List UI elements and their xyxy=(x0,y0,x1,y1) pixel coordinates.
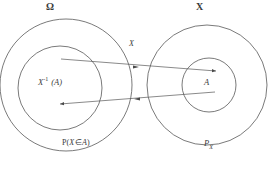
preimage-exponent: -1 xyxy=(43,76,48,82)
probability-close-paren: ) xyxy=(87,138,90,147)
pullback-arrow xyxy=(60,92,215,104)
codomain-set-label: X xyxy=(196,2,203,12)
omega-outer-circle xyxy=(0,19,132,151)
pushforward-measure-label: PX xyxy=(204,139,213,150)
omega-region xyxy=(0,19,132,151)
omega-set-label: Ω xyxy=(46,2,54,12)
map-name-label: X xyxy=(129,40,134,48)
probability-variable: X xyxy=(69,138,74,147)
preimage-argument: (A) xyxy=(51,77,62,87)
forward-map-arrow-midtick xyxy=(133,66,139,69)
pullback-arrow-line xyxy=(60,92,215,104)
forward-map-arrow-line xyxy=(61,59,216,71)
membership-symbol: ∈ xyxy=(75,138,82,147)
probability-label: P(X∈A) xyxy=(62,139,90,147)
event-set-label: A xyxy=(204,78,209,87)
random-variable-diagram: Ω X X X-1(A) A P(X∈A) PX xyxy=(0,0,268,170)
preimage-inner-circle xyxy=(18,46,102,130)
preimage-label: X-1(A) xyxy=(38,76,62,86)
forward-map-arrow xyxy=(61,59,216,71)
pushforward-subscript: X xyxy=(209,144,213,150)
